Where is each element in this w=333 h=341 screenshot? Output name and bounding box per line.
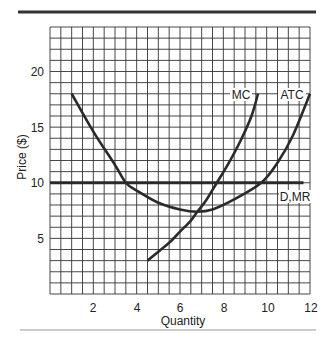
x-tick-10: 10 [261,301,275,315]
chart-grid [50,27,310,294]
chart-canvas: 20 15 10 5 2 4 6 8 10 12 Quantity Price … [0,0,333,341]
x-tick-12: 12 [304,301,318,315]
mc-curve [148,94,259,261]
x-tick-4: 4 [134,301,141,315]
x-tick-2: 2 [90,301,97,315]
mc-label: MC [232,88,251,102]
atc-label: ATC [280,88,303,102]
x-tick-6: 6 [177,301,184,315]
y-tick-20: 20 [31,65,45,79]
y-tick-5: 5 [37,232,44,246]
x-tick-8: 8 [221,301,228,315]
x-axis-label: Quantity [161,314,206,328]
y-axis-label: Price ($) [15,134,29,179]
y-tick-10: 10 [31,176,45,190]
dmr-label: D,MR [280,190,311,204]
y-tick-15: 15 [31,121,45,135]
